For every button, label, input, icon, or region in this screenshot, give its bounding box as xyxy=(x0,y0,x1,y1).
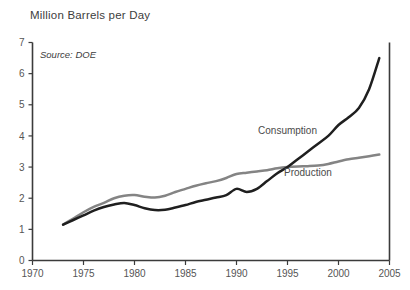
x-tick-label: 1975 xyxy=(72,268,95,279)
y-tick-label: 1 xyxy=(19,224,25,235)
series-label-production: Production xyxy=(284,167,332,178)
chart-title: Million Barrels per Day xyxy=(30,9,150,21)
series-line-production xyxy=(63,155,379,225)
y-tick-label: 6 xyxy=(19,68,25,79)
line-chart: Million Barrels per DaySource: DOE012345… xyxy=(0,0,410,290)
y-tick-label: 5 xyxy=(19,99,25,110)
source-note: Source: DOE xyxy=(40,49,97,60)
chart-container: Million Barrels per DaySource: DOE012345… xyxy=(0,0,410,290)
y-tick-label: 7 xyxy=(19,37,25,48)
series-label-consumption: Consumption xyxy=(258,125,317,136)
y-tick-label: 0 xyxy=(19,255,25,266)
x-tick-label: 1990 xyxy=(225,268,248,279)
y-tick-label: 4 xyxy=(19,131,25,142)
x-tick-label: 1980 xyxy=(123,268,146,279)
y-tick-label: 2 xyxy=(19,193,25,204)
y-tick-label: 3 xyxy=(19,162,25,173)
x-tick-label: 1985 xyxy=(174,268,197,279)
x-tick-label: 1995 xyxy=(276,268,299,279)
x-tick-label: 2000 xyxy=(327,268,350,279)
x-tick-label: 2005 xyxy=(378,268,401,279)
x-tick-label: 1970 xyxy=(21,268,44,279)
